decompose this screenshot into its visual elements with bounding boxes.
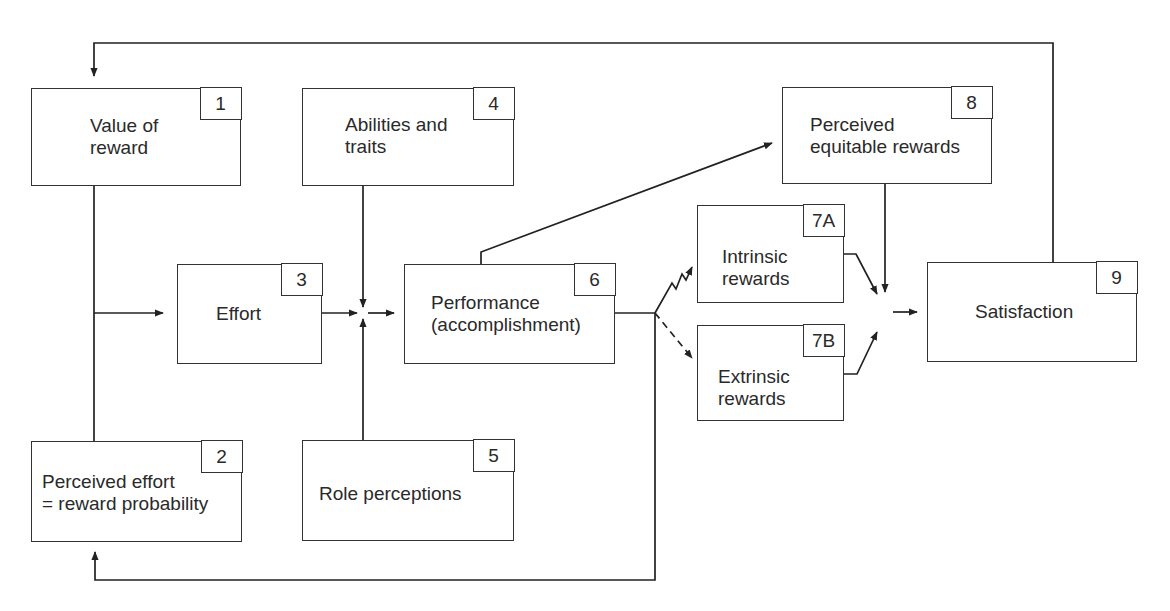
box-role-perceptions: 5 Role perceptions <box>302 440 514 541</box>
box-performance: 6 Performance (accomplishment) <box>404 264 615 364</box>
box-label: Intrinsic rewards <box>722 246 790 290</box>
box-number: 1 <box>200 87 242 120</box>
box-label: Role perceptions <box>319 483 462 505</box>
box-extrinsic-rewards: 7B Extrinsic rewards <box>697 325 844 421</box>
motivation-model-diagram: 1 Value of reward 4 Abilities and traits… <box>0 0 1170 611</box>
box-effort: 3 Effort <box>177 264 322 364</box>
box-label: Satisfaction <box>975 301 1073 323</box>
arrow-extrinsic-to-convergence <box>843 332 877 374</box>
box-number: 4 <box>473 87 515 120</box>
box-number: 7A <box>803 204 845 237</box>
box-number: 2 <box>201 440 243 473</box>
arrow-intrinsic-to-convergence <box>843 254 877 294</box>
box-label: Value of reward <box>90 115 158 159</box>
box-intrinsic-rewards: 7A Intrinsic rewards <box>697 205 844 303</box>
box-perceived-equitable-rewards: 8 Perceived equitable rewards <box>782 87 992 184</box>
dashed-arrow-to-extrinsic <box>655 313 692 358</box>
box-perceived-effort-reward-probability: 2 Perceived effort = reward probability <box>31 441 242 542</box>
box-label: Abilities and traits <box>345 114 447 158</box>
zigzag-arrow-to-intrinsic <box>655 267 692 313</box>
box-number: 5 <box>473 439 515 472</box>
box-label: Perceived effort = reward probability <box>42 471 208 515</box>
box-number: 9 <box>1096 261 1138 294</box>
box-satisfaction: 9 Satisfaction <box>927 262 1137 362</box>
box-label: Performance (accomplishment) <box>431 292 581 336</box>
box-abilities-and-traits: 4 Abilities and traits <box>302 88 514 186</box>
box-value-of-reward: 1 Value of reward <box>31 88 241 186</box>
box-number: 7B <box>803 324 845 357</box>
box-label: Extrinsic rewards <box>718 366 790 410</box>
box-label: Perceived equitable rewards <box>810 114 960 158</box>
box-label: Effort <box>216 303 261 325</box>
box-number: 3 <box>281 263 323 296</box>
